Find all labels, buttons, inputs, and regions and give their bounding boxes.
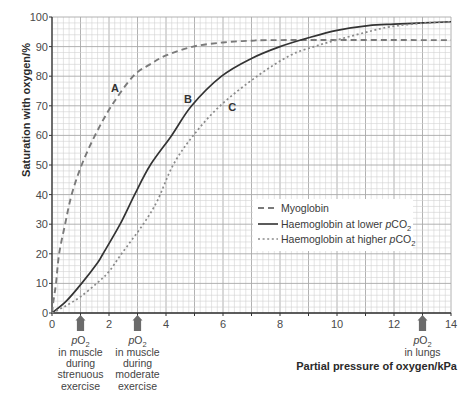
up-arrow-icon bbox=[418, 315, 428, 331]
po2-arrows: pO2in muscleduringstrenuousexercisepO2in… bbox=[57, 315, 440, 392]
arrow-caption-line: during bbox=[123, 357, 152, 369]
up-arrow-icon bbox=[76, 315, 86, 331]
curve-label-a: A bbox=[111, 82, 119, 94]
y-tick-label: 20 bbox=[36, 248, 48, 260]
arrow-caption-line: exercise bbox=[61, 380, 100, 392]
arrow-caption-line: exercise bbox=[118, 380, 157, 392]
chart-canvas: 024681012140102030405060708090100 Myoglo… bbox=[0, 0, 472, 401]
arrow-caption-line: during bbox=[66, 357, 95, 369]
po2-arrow-annotation: pO2in lungs bbox=[404, 315, 440, 358]
y-axis-title: Saturation with oxygen/% bbox=[20, 43, 32, 177]
arrow-caption-line: in lungs bbox=[404, 346, 440, 358]
y-tick-label: 80 bbox=[36, 70, 48, 82]
x-tick-label: 2 bbox=[106, 318, 112, 330]
y-tick-label: 0 bbox=[42, 307, 48, 319]
curve-label-c: C bbox=[228, 101, 236, 113]
arrow-caption-line: moderate bbox=[115, 368, 160, 380]
x-axis-title: Partial pressure of oxygen/kPa bbox=[296, 360, 458, 372]
legend: Myoglobin Haemoglobin at lower pCO2 Haem… bbox=[253, 199, 415, 251]
legend-item-myoglobin: Myoglobin bbox=[281, 202, 329, 214]
x-tick-label: 10 bbox=[331, 318, 343, 330]
arrow-caption-line: in muscle bbox=[115, 346, 160, 358]
oxygen-dissociation-chart: 024681012140102030405060708090100 Myoglo… bbox=[0, 0, 472, 401]
x-tick-label: 4 bbox=[163, 318, 169, 330]
y-tick-label: 30 bbox=[36, 218, 48, 230]
up-arrow-icon bbox=[133, 315, 143, 331]
y-tick-label: 50 bbox=[36, 159, 48, 171]
tick-labels: 024681012140102030405060708090100 bbox=[30, 11, 457, 330]
y-tick-label: 90 bbox=[36, 41, 48, 53]
x-tick-label: 12 bbox=[388, 318, 400, 330]
arrow-caption-line: in muscle bbox=[58, 346, 103, 358]
po2-arrow-annotation: pO2in muscleduringstrenuousexercise bbox=[57, 315, 103, 392]
x-tick-label: 6 bbox=[220, 318, 226, 330]
x-tick-label: 0 bbox=[49, 318, 55, 330]
curve-label-b: B bbox=[184, 93, 192, 105]
arrow-caption-line: strenuous bbox=[57, 368, 103, 380]
y-tick-label: 70 bbox=[36, 100, 48, 112]
y-tick-label: 60 bbox=[36, 129, 48, 141]
x-tick-label: 14 bbox=[445, 318, 457, 330]
y-tick-label: 100 bbox=[30, 11, 48, 23]
x-tick-label: 8 bbox=[277, 318, 283, 330]
y-tick-label: 40 bbox=[36, 189, 48, 201]
y-tick-label: 10 bbox=[36, 277, 48, 289]
po2-arrow-annotation: pO2in muscleduringmoderateexercise bbox=[115, 315, 160, 392]
